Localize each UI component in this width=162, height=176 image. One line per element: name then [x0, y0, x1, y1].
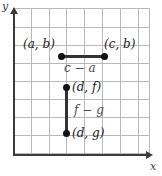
horizontal-segment: [61, 55, 105, 58]
point-d-g: [63, 130, 70, 137]
y-axis-label: y: [2, 0, 8, 13]
vertical-segment: [65, 87, 68, 134]
gridline-horizontal: [13, 27, 150, 28]
x-axis-label: x: [150, 160, 156, 173]
y-axis: [13, 12, 15, 156]
gridline-horizontal: [13, 99, 150, 100]
gridline-horizontal: [13, 8, 150, 9]
x-axis: [13, 154, 149, 156]
x-axis-arrow-icon: [146, 151, 153, 159]
point-d-f-label: (d, f): [72, 81, 101, 93]
vertical-length-label: f − g: [74, 104, 104, 116]
point-c-b: [101, 53, 108, 60]
point-d-g-label: (d, g): [72, 127, 104, 139]
gridline-horizontal: [13, 117, 150, 118]
horizontal-length-label: c − a: [64, 62, 96, 74]
coordinate-grid-figure: y x (a, b) (c, b) (d, f) (d, g) c − a f …: [0, 0, 162, 176]
point-c-b-label: (c, b): [104, 38, 135, 50]
point-d-f: [63, 84, 70, 91]
point-a-b: [58, 53, 65, 60]
point-a-b-label: (a, b): [23, 38, 55, 50]
y-axis-arrow-icon: [10, 7, 18, 14]
